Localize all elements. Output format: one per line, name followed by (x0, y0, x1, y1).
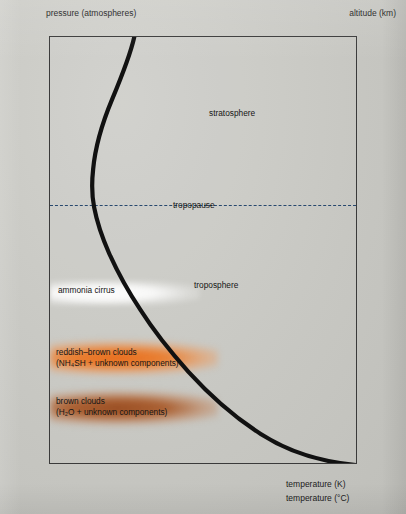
figure-page: pressure (atmospheres) altitude (km) str… (0, 0, 406, 514)
altitude-tick (356, 57, 357, 58)
altitude-tick (356, 218, 357, 219)
altitude-tick (356, 164, 357, 165)
pressure-tick (49, 137, 50, 138)
altitude-tick (356, 378, 357, 379)
label-reddish-brown-composition: (NH₄SH + unknown components) (56, 358, 179, 368)
pressure-tick (49, 422, 50, 423)
temperature-tick (270, 463, 271, 464)
temperature-tick (183, 463, 184, 464)
altitude-tick (356, 432, 357, 433)
temperature-tick (95, 463, 96, 464)
altitude-axis-title: altitude (km) (349, 8, 396, 18)
label-tropopause: tropopause (170, 200, 218, 210)
temperature-k-axis-title: temperature (K) (286, 479, 346, 489)
label-ammonia-cirrus: ammonia cirrus (58, 285, 115, 295)
altitude-tick (356, 271, 357, 272)
label-reddish-brown-clouds: reddish–brown clouds (56, 347, 137, 357)
pressure-tick (49, 37, 50, 38)
label-troposphere: troposphere (194, 280, 238, 290)
altitude-tick (356, 111, 357, 112)
temperature-c-axis-title: temperature (°C) (286, 493, 349, 503)
pressure-axis-title: pressure (atmospheres) (46, 8, 136, 18)
altitude-tick (356, 325, 357, 326)
label-stratosphere: stratosphere (209, 108, 255, 118)
pressure-tick (49, 322, 50, 323)
label-brown-clouds: brown clouds (56, 396, 105, 406)
plot-area: stratosphere troposphere tropopause ammo… (49, 36, 357, 464)
pressure-tick (49, 180, 50, 181)
label-brown-composition: (H₂O + unknown components) (56, 407, 167, 417)
pressure-tick (49, 279, 50, 280)
